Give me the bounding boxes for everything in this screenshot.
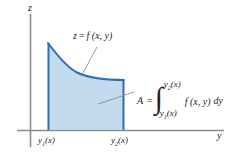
area-equals-sign: = (147, 96, 153, 106)
tick-label-y2-argument: (x) (118, 135, 128, 145)
differential-dy: dy (214, 96, 223, 106)
integral-lower-limit-argument: (x) (167, 108, 177, 118)
integral-upper-limit-argument: (x) (171, 79, 181, 89)
curve-equation-label: z=f (x, y) (73, 31, 112, 41)
curve-equation-rhs: f (x, y) (87, 30, 113, 41)
y-axis-label: y (217, 131, 221, 141)
curve-equation-lhs: z (73, 30, 77, 41)
integral-upper-limit: y2(x) (164, 80, 181, 91)
integrand-expression: f (x, y) (185, 95, 211, 107)
integral-lower-limit: y1(x) (160, 109, 177, 120)
integral-group: ∫ y2(x) y1(x) (155, 81, 181, 121)
integral-area-figure: z y z=f (x, y) y1(x) y2(x) A= ∫ y2(x) y1… (0, 0, 233, 165)
tick-label-y1: y1(x) (38, 136, 55, 147)
area-integral-expression: A= ∫ y2(x) y1(x) f (x, y)dy (137, 81, 223, 121)
curve-equation-equals: = (79, 30, 85, 41)
curve-label-leader-line (83, 47, 97, 73)
z-axis-label: z (28, 3, 32, 13)
tick-label-y2: y2(x) (111, 136, 128, 147)
tick-label-y1-argument: (x) (45, 135, 55, 145)
area-symbol: A (137, 96, 143, 106)
